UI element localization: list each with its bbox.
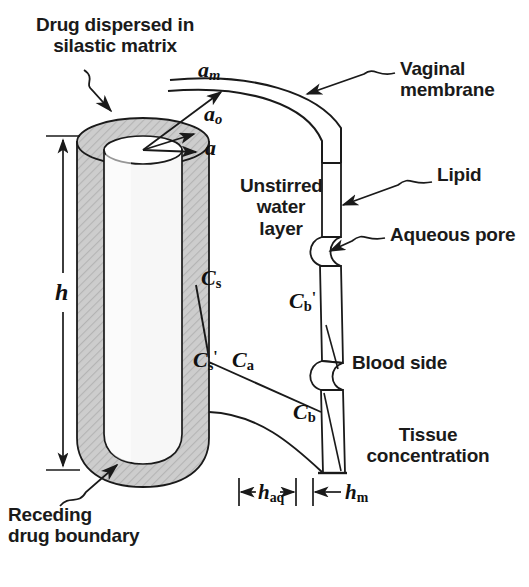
symbol-C-s: Cs bbox=[201, 265, 221, 292]
label-blood-side: Blood side bbox=[352, 352, 447, 373]
dimension-h-m bbox=[313, 478, 341, 506]
symbol-a-m: am bbox=[198, 57, 220, 84]
silastic-matrix-cylinder bbox=[77, 118, 209, 487]
symbol-h-aq: haq bbox=[258, 480, 284, 506]
symbol-h: h bbox=[55, 279, 68, 306]
symbol-a: a bbox=[205, 135, 216, 161]
figure-canvas: Drug dispersed in silastic matrix Recedi… bbox=[0, 0, 529, 587]
label-unstirred-water-layer: Unstirred water layer bbox=[240, 175, 322, 239]
leader-drug-dispersed bbox=[84, 70, 111, 111]
label-drug-dispersed: Drug dispersed in silastic matrix bbox=[10, 14, 220, 57]
symbol-a-o: ao bbox=[204, 101, 222, 128]
symbol-C-a: Ca bbox=[232, 347, 254, 374]
label-receding-drug-boundary: Receding drug boundary bbox=[8, 504, 208, 547]
label-aqueous-pore: Aqueous pore bbox=[390, 224, 515, 245]
label-vaginal-membrane: Vaginal membrane bbox=[400, 58, 495, 101]
label-lipid: Lipid bbox=[437, 164, 481, 185]
leader-vaginal-membrane bbox=[307, 71, 395, 94]
symbol-C-b-prime: Cb' bbox=[289, 288, 316, 315]
symbol-h-m: hm bbox=[345, 480, 368, 506]
label-tissue-concentration: Tissue concentration bbox=[348, 424, 508, 467]
leader-lipid bbox=[343, 181, 432, 205]
symbol-C-s-prime: Cs' bbox=[193, 347, 218, 374]
symbol-C-b: Cb bbox=[293, 399, 316, 426]
